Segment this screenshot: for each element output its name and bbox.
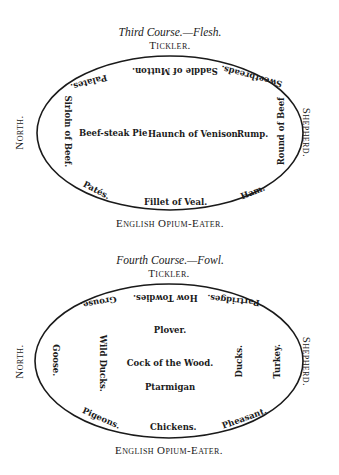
dish-plover: Plover.: [154, 326, 186, 335]
dish-round-of-beef: Round of Beef: [277, 97, 286, 165]
dish-ducks: Ducks.: [235, 345, 244, 377]
dish-sirloin-of-beef: Sirloin of Beef.: [64, 95, 73, 167]
dish-goose: Goose.: [52, 344, 61, 376]
dish-beef-steak-pie: Beef-steak Pie: [79, 129, 147, 138]
dish-rump: Rump.: [237, 130, 268, 139]
dish-saddle-of-mutton: Saddle of Mutton.: [132, 66, 218, 75]
third-course-top-seat: Tickler.: [149, 40, 191, 51]
dish-ptarmigan: Ptarmigan: [145, 383, 195, 392]
dish-how-towdies: How Towdies.: [133, 293, 198, 302]
dish-turkey: Turkey.: [273, 344, 282, 378]
fourth-course-right-seat: Shepherd.: [301, 337, 312, 386]
dish-cock-of-the-wood: Cock of the Wood.: [127, 359, 213, 368]
dish-fillet-of-veal: Fillet of Veal.: [144, 198, 207, 207]
third-course-right-seat: Shepherd.: [301, 108, 312, 157]
dish-wild-ducks: Wild Ducks.: [98, 335, 107, 392]
fourth-course-left-seat: North.: [14, 344, 25, 378]
dish-chickens: Chickens.: [150, 423, 197, 432]
third-course-heading: Third Course.—Flesh.: [119, 27, 222, 39]
fourth-course-heading: Fourth Course.—Fowl.: [116, 255, 224, 267]
fourth-course-top-seat: Tickler.: [148, 268, 190, 279]
dish-haunch-of-venison: Haunch of Venison.: [148, 130, 241, 139]
fourth-course-bottom-seat: English Opium-Eater.: [115, 445, 223, 456]
third-course-bottom-seat: English Opium-Eater.: [116, 218, 224, 229]
third-course-left-seat: North.: [14, 115, 25, 149]
